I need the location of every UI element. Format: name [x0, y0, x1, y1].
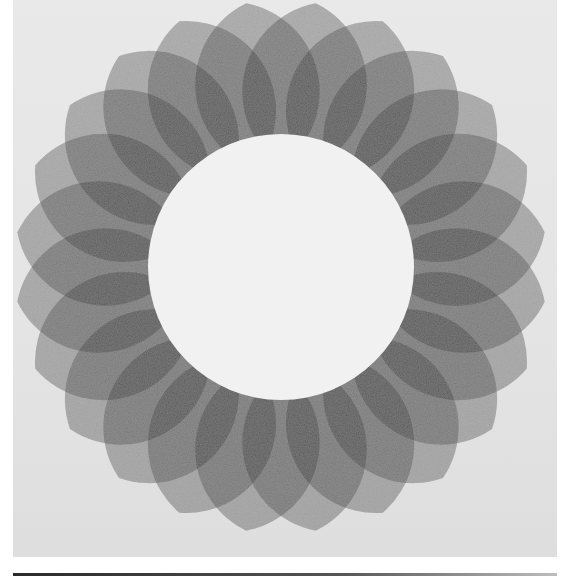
center-disc	[148, 134, 414, 400]
rosette-artwork	[13, 0, 557, 557]
